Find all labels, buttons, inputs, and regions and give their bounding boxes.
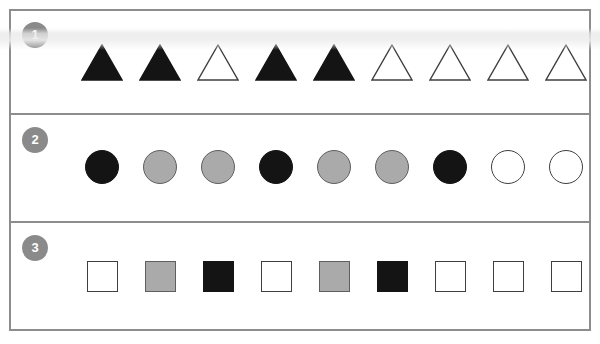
square-outline-white xyxy=(87,261,118,292)
square-strip xyxy=(73,253,595,299)
triangle-filled-black xyxy=(255,44,297,81)
shape-cell[interactable] xyxy=(479,144,537,190)
circle-filled-gray xyxy=(375,150,409,184)
shape-cell[interactable] xyxy=(479,253,537,299)
shape-cell[interactable] xyxy=(189,253,247,299)
shape-cell[interactable] xyxy=(537,39,595,85)
circle-filled-black xyxy=(85,150,119,184)
shape-cell[interactable] xyxy=(363,39,421,85)
square-filled-black xyxy=(203,261,234,292)
row-badge-1: 1 xyxy=(22,22,48,48)
triangle-outline-white xyxy=(197,44,239,81)
shape-cell[interactable] xyxy=(247,144,305,190)
shape-cell[interactable] xyxy=(247,39,305,85)
row-triangles: 1 xyxy=(11,11,589,115)
circle-filled-gray xyxy=(143,150,177,184)
square-outline-white xyxy=(261,261,292,292)
shape-cell[interactable] xyxy=(247,253,305,299)
triangle-filled-black xyxy=(313,44,355,81)
shape-cell[interactable] xyxy=(305,253,363,299)
circle-filled-black xyxy=(259,150,293,184)
circle-strip xyxy=(73,144,595,190)
square-outline-white xyxy=(435,261,466,292)
shape-cell[interactable] xyxy=(537,253,595,299)
shape-cell[interactable] xyxy=(421,253,479,299)
row-badge-3: 3 xyxy=(22,235,48,261)
triangle-outline-white xyxy=(487,44,529,81)
shape-cell[interactable] xyxy=(479,39,537,85)
shape-cell[interactable] xyxy=(305,144,363,190)
triangle-outline-white xyxy=(545,44,587,81)
shape-cell[interactable] xyxy=(363,144,421,190)
triangle-outline-white xyxy=(429,44,471,81)
row-badge-2: 2 xyxy=(22,127,48,153)
shape-cell[interactable] xyxy=(73,144,131,190)
circle-filled-gray xyxy=(317,150,351,184)
circle-filled-gray xyxy=(201,150,235,184)
triangle-outline-white xyxy=(371,44,413,81)
triangle-strip xyxy=(73,39,595,85)
square-filled-gray xyxy=(319,261,350,292)
circle-outline-white xyxy=(549,150,583,184)
shape-cell[interactable] xyxy=(363,253,421,299)
pattern-frame: 1 xyxy=(9,9,591,331)
row-squares: 3 xyxy=(11,223,589,329)
circle-outline-white xyxy=(491,150,525,184)
row-circles: 2 xyxy=(11,115,589,221)
shape-cell[interactable] xyxy=(305,39,363,85)
circle-filled-black xyxy=(433,150,467,184)
square-outline-white xyxy=(551,261,582,292)
shape-cell[interactable] xyxy=(421,39,479,85)
shape-cell[interactable] xyxy=(73,253,131,299)
square-filled-gray xyxy=(145,261,176,292)
shape-cell[interactable] xyxy=(189,39,247,85)
triangle-filled-black xyxy=(139,44,181,81)
shape-cell[interactable] xyxy=(131,144,189,190)
triangle-filled-black xyxy=(81,44,123,81)
shape-cell[interactable] xyxy=(189,144,247,190)
shape-cell[interactable] xyxy=(131,253,189,299)
shape-cell[interactable] xyxy=(73,39,131,85)
shape-cell[interactable] xyxy=(131,39,189,85)
square-outline-white xyxy=(493,261,524,292)
shape-cell[interactable] xyxy=(537,144,595,190)
shape-cell[interactable] xyxy=(421,144,479,190)
square-filled-black xyxy=(377,261,408,292)
